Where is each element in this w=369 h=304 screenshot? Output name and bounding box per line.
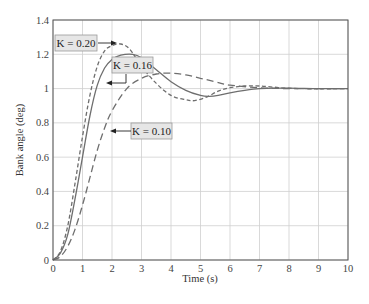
y-tick-label: 1.4 <box>36 15 50 26</box>
arrow-icon <box>110 129 116 134</box>
x-tick-label: 9 <box>316 263 321 274</box>
x-tick-label: 3 <box>139 263 144 274</box>
y-tick-label: 1 <box>44 83 49 94</box>
y-tick-labels: 00.20.40.60.811.21.4 <box>36 15 50 266</box>
annotation-k020: K = 0.20 <box>55 35 117 51</box>
y-tick-label: 0.4 <box>36 186 50 197</box>
grid-lines <box>53 20 348 260</box>
label-k010: K = 0.10 <box>132 125 171 137</box>
step-response-chart: 012345678910 00.20.40.60.811.21.4 Time (… <box>0 0 369 304</box>
x-tick-label: 7 <box>257 263 262 274</box>
x-tick-label: 1 <box>80 263 85 274</box>
x-tick-label: 8 <box>286 263 291 274</box>
label-k016: K = 0.16 <box>113 59 152 71</box>
arrow-icon <box>106 81 112 86</box>
x-axis-label: Time (s) <box>182 273 218 285</box>
label-k020: K = 0.20 <box>57 37 96 49</box>
y-tick-label: 0.2 <box>36 220 49 231</box>
x-tick-label: 4 <box>168 263 174 274</box>
annotation-k016: K = 0.16 <box>106 57 153 86</box>
y-tick-label: 0 <box>44 255 49 266</box>
annotation-k010: K = 0.10 <box>110 123 172 139</box>
x-tick-label: 6 <box>227 263 232 274</box>
y-tick-label: 0.8 <box>36 117 49 128</box>
x-tick-label: 0 <box>50 263 55 274</box>
y-tick-label: 0.6 <box>36 152 49 163</box>
y-tick-label: 1.2 <box>36 49 49 60</box>
x-tick-label: 10 <box>343 263 354 274</box>
x-tick-label: 2 <box>109 263 114 274</box>
y-axis-label: Bank angle (deg) <box>14 103 26 176</box>
